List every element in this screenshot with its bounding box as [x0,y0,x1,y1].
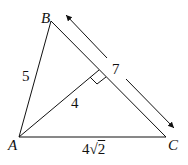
label-bc: 7 [112,62,120,77]
right-angle-marker [90,77,106,84]
label-ac: 4√2 [82,142,105,157]
label-altitude: 4 [71,96,79,111]
vertex-label-a: A [8,138,17,153]
sqrt-symbol: √ [90,141,98,157]
side-bc [51,21,166,137]
vertex-label-b: B [41,11,50,26]
triangle-diagram: B A C 5 4 7 4√2 [0,0,188,165]
label-ab: 5 [22,69,30,84]
label-ac-coefficient: 4 [82,141,90,157]
vertex-label-c: C [168,138,178,153]
label-ac-radicand: 2 [98,141,106,157]
dimension-arrow-upper [66,15,107,58]
altitude-line [19,70,99,137]
